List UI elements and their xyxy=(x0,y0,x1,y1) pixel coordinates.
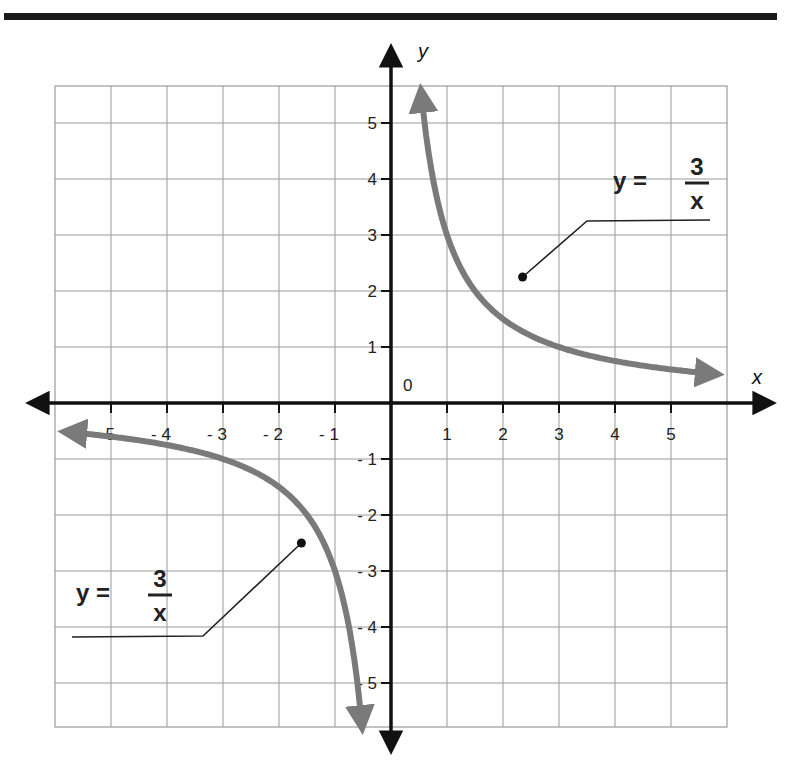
y-tick-label: 1 xyxy=(368,338,377,357)
y-tick-label: 5 xyxy=(368,114,377,133)
y-tick-label: - 1 xyxy=(357,450,377,469)
x-tick-label: 1 xyxy=(442,425,451,444)
y-tick-label: 4 xyxy=(368,170,377,189)
x-tick-label: 5 xyxy=(666,425,675,444)
hyperbola-chart: - 5- 4- 3- 2- 11234554321- 1- 2- 3- 4- 5… xyxy=(0,0,790,760)
equation-lhs: y = xyxy=(613,167,647,194)
origin-label: 0 xyxy=(403,376,412,395)
equation-lhs: y = xyxy=(76,579,110,606)
x-tick-label: - 3 xyxy=(207,425,227,444)
x-axis-label: x xyxy=(751,366,763,388)
x-tick-label: 2 xyxy=(498,425,507,444)
equation-label: y =3x xyxy=(72,539,306,638)
y-tick-label: - 3 xyxy=(357,562,377,581)
equation-denominator: x xyxy=(690,187,704,214)
equation-denominator: x xyxy=(153,599,167,626)
y-tick-label: - 2 xyxy=(357,506,377,525)
x-tick-label: 4 xyxy=(610,425,619,444)
equation-label: y =3x xyxy=(518,153,710,282)
x-tick-label: - 2 xyxy=(263,425,283,444)
y-axis-label: y xyxy=(416,40,429,62)
leader-line xyxy=(523,220,710,277)
y-tick-label: 3 xyxy=(368,226,377,245)
equation-numerator: 3 xyxy=(153,565,166,592)
x-tick-label: 3 xyxy=(554,425,563,444)
axes xyxy=(30,48,772,750)
y-tick-label: - 4 xyxy=(357,618,377,637)
top-rule xyxy=(4,13,777,20)
x-tick-label: - 1 xyxy=(319,425,339,444)
leader-dot xyxy=(518,273,527,282)
equation-numerator: 3 xyxy=(690,153,703,180)
curve-quadrant-1 xyxy=(421,92,716,374)
y-tick-label: 2 xyxy=(368,282,377,301)
leader-dot xyxy=(297,539,306,548)
